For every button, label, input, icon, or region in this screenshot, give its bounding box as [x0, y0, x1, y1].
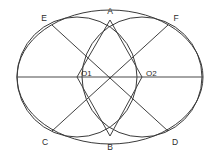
label-center-o2: O2	[146, 69, 157, 78]
geometry-diagram: A B C D E F O1 O2	[0, 0, 218, 162]
chord-a-to-o2	[110, 20, 142, 77]
chord-b-to-o1	[77, 77, 110, 136]
label-point-e: E	[41, 13, 47, 23]
label-point-d: D	[172, 137, 178, 147]
geometry-canvas: A B C D E F O1 O2	[0, 0, 218, 162]
label-point-a: A	[107, 6, 113, 16]
chord-b-to-o2	[110, 77, 142, 136]
label-center-o1: O1	[81, 69, 92, 78]
label-point-b: B	[107, 142, 113, 152]
label-point-f: F	[173, 13, 178, 23]
label-point-c: C	[42, 137, 48, 147]
